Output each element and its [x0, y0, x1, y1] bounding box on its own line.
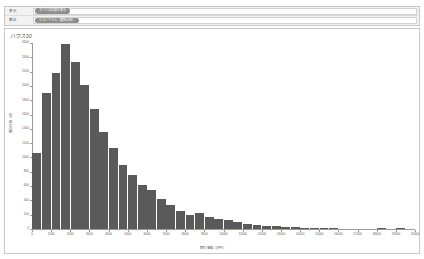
- histogram-bar[interactable]: [99, 132, 108, 229]
- x-tick-label: 16000: [334, 233, 343, 236]
- x-axis-label: 取引価格（万円）: [5, 245, 421, 250]
- histogram-bar[interactable]: [233, 222, 242, 229]
- histogram-bar[interactable]: [387, 229, 396, 230]
- x-tick-label: 4000: [105, 233, 112, 236]
- y-tick-label: 2600: [13, 41, 29, 44]
- histogram-bar[interactable]: [291, 227, 300, 229]
- y-tick-label: 800: [13, 170, 29, 173]
- histogram-bar[interactable]: [90, 109, 99, 229]
- x-tick-mark: [358, 230, 359, 232]
- x-tick-mark: [147, 230, 148, 232]
- x-tick-label: 17000: [353, 233, 362, 236]
- histogram-bar[interactable]: [367, 229, 376, 230]
- histogram-bar[interactable]: [214, 219, 223, 229]
- histogram-bar[interactable]: [320, 228, 329, 229]
- filter-chip-aggregate[interactable]: ヒストグラム（度数分布）: [35, 18, 79, 23]
- histogram-bar[interactable]: [310, 228, 319, 229]
- histogram-bars: [32, 43, 415, 229]
- histogram-bar[interactable]: [205, 217, 214, 229]
- histogram-bar[interactable]: [262, 226, 271, 229]
- histogram-bar[interactable]: [138, 185, 147, 229]
- filter-chip-display[interactable]: すべての年度を表示: [35, 8, 70, 13]
- histogram-bar[interactable]: [272, 226, 281, 229]
- y-tick-label: 600: [13, 184, 29, 187]
- plot-area: 取引件数（件） 取引価格（万円） 02004006008001000120014…: [5, 29, 421, 255]
- histogram-bar[interactable]: [128, 175, 137, 229]
- x-tick-mark: [300, 230, 301, 232]
- x-tick-label: 8000: [182, 233, 189, 236]
- x-tick-mark: [166, 230, 167, 232]
- x-tick-mark: [70, 230, 71, 232]
- y-tick-label: 2400: [13, 56, 29, 59]
- y-tick-label: 1800: [13, 99, 29, 102]
- x-tick-mark: [396, 230, 397, 232]
- histogram-bar[interactable]: [329, 228, 338, 229]
- x-tick-label: 7000: [163, 233, 170, 236]
- x-tick-mark: [224, 230, 225, 232]
- filter-row-display[interactable]: 表示 すべての年度を表示: [5, 7, 419, 16]
- x-tick-mark: [415, 230, 416, 232]
- y-tick-label: 400: [13, 199, 29, 202]
- y-tick-label: 1200: [13, 142, 29, 145]
- filter-row-aggregate[interactable]: 集計 ヒストグラム（度数分布）: [5, 16, 419, 25]
- y-tick-label: 200: [13, 213, 29, 216]
- x-tick-label: 13000: [277, 233, 286, 236]
- y-tick-label: 1000: [13, 156, 29, 159]
- histogram-dashboard: 表示 すべての年度を表示 集計 ヒストグラム（度数分布） ハウス30 取引件数（…: [0, 0, 424, 259]
- x-tick-label: 3000: [86, 233, 93, 236]
- histogram-bar[interactable]: [32, 153, 41, 229]
- histogram-bar[interactable]: [253, 225, 262, 229]
- histogram-bar[interactable]: [195, 213, 204, 229]
- histogram-bar[interactable]: [339, 229, 348, 230]
- y-tick-label: 1400: [13, 127, 29, 130]
- x-tick-label: 10000: [219, 233, 228, 236]
- x-tick-mark: [338, 230, 339, 232]
- x-axis-line: [32, 229, 415, 230]
- x-tick-label: 6000: [143, 233, 150, 236]
- x-tick-label: 2000: [67, 233, 74, 236]
- x-tick-mark: [319, 230, 320, 232]
- histogram-bar[interactable]: [109, 148, 118, 229]
- histogram-bar[interactable]: [406, 229, 415, 230]
- x-tick-label: 12000: [257, 233, 266, 236]
- filter-select-aggregate[interactable]: ヒストグラム（度数分布）: [33, 17, 417, 24]
- filter-panel: 表示 すべての年度を表示 集計 ヒストグラム（度数分布）: [4, 6, 420, 26]
- histogram-bar[interactable]: [119, 165, 128, 229]
- histogram-bar[interactable]: [358, 229, 367, 230]
- x-tick-mark: [128, 230, 129, 232]
- x-tick-mark: [89, 230, 90, 232]
- x-tick-label: 9000: [201, 233, 208, 236]
- x-tick-label: 14000: [296, 233, 305, 236]
- histogram-bar[interactable]: [42, 93, 51, 229]
- filter-select-display[interactable]: すべての年度を表示: [33, 8, 417, 15]
- histogram-bar[interactable]: [176, 211, 185, 229]
- histogram-bar[interactable]: [377, 228, 386, 229]
- x-tick-mark: [204, 230, 205, 232]
- x-tick-label: 0: [31, 233, 33, 236]
- histogram-bar[interactable]: [52, 73, 61, 229]
- x-tick-mark: [281, 230, 282, 232]
- histogram-bar[interactable]: [61, 44, 70, 229]
- x-tick-mark: [377, 230, 378, 232]
- x-tick-mark: [185, 230, 186, 232]
- x-tick-mark: [109, 230, 110, 232]
- histogram-bar[interactable]: [300, 228, 309, 229]
- histogram-bar[interactable]: [71, 62, 80, 229]
- x-tick-mark: [32, 230, 33, 232]
- histogram-bar[interactable]: [157, 199, 166, 229]
- histogram-bar[interactable]: [396, 228, 405, 229]
- x-tick-label: 15000: [315, 233, 324, 236]
- histogram-bar[interactable]: [186, 215, 195, 229]
- x-tick-label: 11000: [238, 233, 246, 236]
- histogram-bar[interactable]: [166, 205, 175, 229]
- histogram-bar[interactable]: [80, 85, 89, 229]
- y-tick-label: 1600: [13, 113, 29, 116]
- histogram-bar[interactable]: [348, 229, 357, 230]
- histogram-bar[interactable]: [224, 220, 233, 229]
- histogram-bar[interactable]: [281, 227, 290, 229]
- histogram-bar[interactable]: [243, 224, 252, 229]
- x-tick-label: 5000: [124, 233, 131, 236]
- histogram-bar[interactable]: [147, 190, 156, 229]
- x-tick-label: 20000: [411, 233, 420, 236]
- chart-card: ハウス30 取引件数（件） 取引価格（万円） 02004006008001000…: [4, 28, 420, 254]
